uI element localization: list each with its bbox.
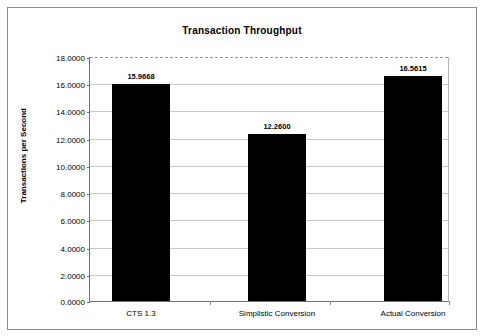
y-tick-label-18: 18.0000 (56, 54, 85, 63)
x-category-label-2: Actual Conversion (381, 309, 446, 318)
y-tick-mark-10 (87, 167, 90, 168)
chart-title: Transaction Throughput (8, 25, 476, 36)
x-category-label-0: CTS 1.3 (126, 309, 155, 318)
y-axis-title: Transactions per Second (19, 108, 33, 203)
gridline-18: 18.0000 (90, 57, 448, 58)
y-tick-label-12: 12.0000 (56, 135, 85, 144)
plot-area: 18.0000 16.0000 14.0000 12.0000 10.0000 … (89, 57, 449, 302)
y-tick-mark-0 (87, 302, 90, 303)
y-tick-label-10: 10.0000 (56, 162, 85, 171)
y-tick-label-4: 4.0000 (61, 244, 85, 253)
y-tick-mark-4 (87, 249, 90, 250)
y-tick-mark-2 (87, 276, 90, 277)
bar-actual-conversion[interactable]: 16.5615 (384, 76, 442, 301)
x-category-label-1: Simplistic Conversion (239, 309, 315, 318)
x-tick-mark-1 (210, 301, 211, 305)
x-tick-mark-2 (330, 301, 331, 305)
bar-value-actual-conversion: 16.5615 (399, 64, 426, 73)
y-tick-label-16: 16.0000 (56, 81, 85, 90)
bar-value-cts-1-3: 15.9668 (127, 72, 154, 81)
y-tick-label-14: 14.0000 (56, 108, 85, 117)
bar-simplistic-conversion[interactable]: 12.2600 (248, 134, 306, 301)
y-tick-label-2: 2.0000 (61, 271, 85, 280)
y-tick-mark-16 (87, 85, 90, 86)
chart-container: Transaction Throughput Transactions per … (7, 7, 477, 330)
y-tick-mark-18 (87, 58, 90, 59)
y-tick-mark-14 (87, 112, 90, 113)
bar-value-simplistic-conversion: 12.2600 (263, 122, 290, 131)
y-tick-mark-12 (87, 140, 90, 141)
y-tick-label-8: 8.0000 (61, 190, 85, 199)
y-tick-label-6: 6.0000 (61, 217, 85, 226)
y-tick-mark-8 (87, 194, 90, 195)
y-tick-mark-6 (87, 221, 90, 222)
x-tick-mark-3 (449, 301, 450, 305)
bar-cts-1-3[interactable]: 15.9668 (112, 84, 170, 301)
y-tick-label-0: 0.0000 (61, 298, 85, 307)
